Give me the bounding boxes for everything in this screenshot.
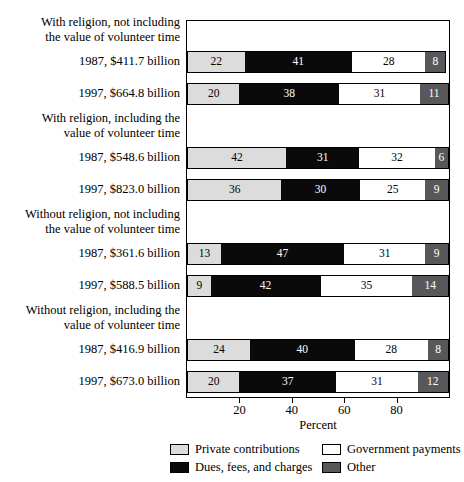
group-heading: With religion, not includingthe value of…	[0, 14, 180, 45]
bar-segment-value: 31	[379, 248, 391, 260]
bar-segment-value: 32	[391, 152, 403, 164]
bar-segment-value: 35	[361, 280, 373, 292]
bar-segment-other: 8	[425, 51, 446, 73]
bar-segment-value: 31	[374, 88, 386, 100]
group-heading-line-1: With religion, not including	[0, 15, 180, 30]
bar-segment-other: 14	[412, 275, 449, 297]
bar-segment-value: 41	[293, 56, 305, 68]
stacked-bar: 20373112	[187, 371, 449, 393]
bar-segment-value: 13	[199, 248, 211, 260]
legend-item-dues-fees-and-charges: Dues, fees, and charges	[170, 461, 322, 474]
bar-segment-gov: 31	[344, 243, 425, 265]
group-heading-line-1: Without religion, including the	[0, 303, 180, 318]
legend-label-government-payments: Government payments	[347, 443, 461, 456]
bar-segment-other: 12	[418, 371, 449, 393]
bar-segment-gov: 25	[360, 179, 426, 201]
bar-segment-value: 37	[282, 376, 294, 388]
bar-segment-value: 40	[297, 344, 309, 356]
bar-segment-private: 13	[187, 243, 221, 265]
group-heading-line-2: the value of volunteer time	[0, 30, 180, 45]
bar-segment-private: 20	[187, 371, 239, 393]
bar-segment-value: 28	[383, 56, 395, 68]
bar-segment-private: 36	[187, 179, 281, 201]
bar-segment-gov: 28	[355, 339, 428, 361]
bar-segment-value: 9	[434, 248, 440, 260]
bar-segment-private: 22	[187, 51, 245, 73]
x-axis-tick-label: 80	[377, 403, 417, 418]
x-axis: 20406080	[186, 398, 450, 399]
bar-segment-gov: 31	[336, 371, 417, 393]
legend-label-dues-fees-and-charges: Dues, fees, and charges	[195, 461, 312, 474]
bar-segment-value: 8	[435, 344, 441, 356]
stacked-bar: 2241288	[187, 51, 449, 73]
legend-label-other: Other	[347, 461, 375, 474]
bar-segment-value: 30	[315, 184, 327, 196]
bar-segment-value: 22	[211, 56, 223, 68]
x-axis-title: Percent	[186, 418, 450, 433]
stacked-bar: 20383111	[187, 83, 449, 105]
bar-segment-gov: 31	[339, 83, 420, 105]
legend: Private contributions Government payment…	[170, 440, 464, 476]
legend-row: Private contributions Government payment…	[170, 440, 464, 458]
bar-segment-value: 6	[439, 152, 445, 164]
bar-segment-value: 36	[229, 184, 241, 196]
bar-row-label: 1987, $411.7 billion	[0, 46, 180, 69]
legend-item-private-contributions: Private contributions	[170, 443, 322, 456]
bar-segment-value: 12	[427, 376, 439, 388]
bar-segment-value: 20	[208, 376, 220, 388]
group-heading: Without religion, including thevalue of …	[0, 302, 180, 333]
bar-segment-dues: 40	[250, 339, 355, 361]
bar-segment-dues: 37	[239, 371, 336, 393]
bar-segment-private: 9	[187, 275, 211, 297]
bar-row-label: 1997, $588.5 billion	[0, 270, 180, 293]
x-axis-tick-label: 60	[324, 403, 364, 418]
bar-segment-dues: 38	[239, 83, 339, 105]
bar-segment-value: 25	[387, 184, 399, 196]
group-heading-line-2: value of volunteer time	[0, 318, 180, 333]
bar-row-label: 1987, $548.6 billion	[0, 142, 180, 165]
stacked-bar: 1347319	[187, 243, 449, 265]
bar-segment-dues: 41	[245, 51, 352, 73]
legend-row: Dues, fees, and charges Other	[170, 458, 464, 476]
stacked-bar-chart: With religion, not includingthe value of…	[0, 0, 464, 482]
legend-swatch-dues-fees-and-charges-icon	[170, 462, 189, 473]
bar-segment-other: 11	[420, 83, 449, 105]
legend-swatch-government-payments-icon	[322, 444, 341, 455]
legend-item-government-payments: Government payments	[322, 443, 464, 456]
bar-segment-value: 38	[283, 88, 295, 100]
bar-segment-value: 9	[196, 280, 202, 292]
bar-segment-value: 47	[277, 248, 289, 260]
bar-row-label: 1987, $416.9 billion	[0, 334, 180, 357]
group-heading-line-2: the value of volunteer time	[0, 222, 180, 237]
bar-segment-other: 9	[425, 179, 449, 201]
stacked-bar: 9423514	[187, 275, 449, 297]
bar-segment-value: 42	[260, 280, 272, 292]
bar-segment-dues: 30	[281, 179, 360, 201]
legend-swatch-private-contributions-icon	[170, 444, 189, 455]
bar-segment-other: 6	[435, 147, 449, 169]
group-heading-line-1: With religion, including the	[0, 111, 180, 126]
group-heading: With religion, including thevalue of vol…	[0, 110, 180, 141]
bar-segment-dues: 31	[286, 147, 359, 169]
bar-segment-gov: 28	[352, 51, 425, 73]
bar-segment-value: 31	[371, 376, 383, 388]
bar-segment-other: 8	[428, 339, 449, 361]
bar-segment-dues: 47	[221, 243, 344, 265]
bar-segment-value: 14	[424, 280, 436, 292]
bar-segment-gov: 35	[321, 275, 413, 297]
group-heading-line-2: value of volunteer time	[0, 126, 180, 141]
bar-segment-value: 42	[231, 152, 243, 164]
bar-segment-value: 31	[317, 152, 329, 164]
bar-row-label: 1987, $361.6 billion	[0, 238, 180, 261]
stacked-bar: 4231326	[187, 147, 449, 169]
bar-segment-value: 8	[432, 56, 438, 68]
bar-segment-value: 24	[213, 344, 225, 356]
bar-segment-private: 24	[187, 339, 250, 361]
plot-area: 2241288203831114231326363025913473199423…	[186, 20, 450, 398]
legend-swatch-other-icon	[322, 462, 341, 473]
bar-segment-value: 28	[386, 344, 398, 356]
group-heading-line-1: Without religion, not including	[0, 207, 180, 222]
bar-segment-dues: 42	[211, 275, 321, 297]
bar-row-label: 1997, $823.0 billion	[0, 174, 180, 197]
legend-label-private-contributions: Private contributions	[195, 443, 300, 456]
